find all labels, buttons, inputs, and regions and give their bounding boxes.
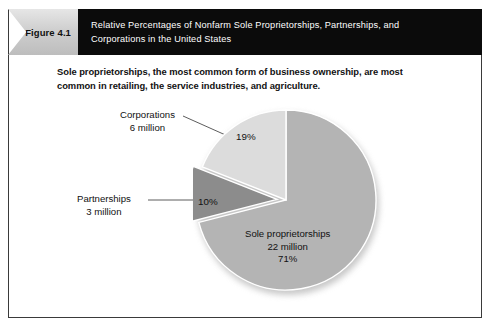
data-label-corporations-percent: 19% <box>236 131 256 142</box>
figure-label: Figure 4.1 <box>25 27 71 38</box>
figure-label-tab: Figure 4.1 <box>8 9 78 55</box>
figure-title-line-1: Relative Percentages of Nonfarm Sole Pro… <box>91 18 472 32</box>
data-label-partnerships-percent: 10% <box>198 196 218 207</box>
callout-corporations-count: 6 million <box>120 122 175 135</box>
callout-sole-name: Sole proprietorships <box>245 228 330 241</box>
callout-corporations-name: Corporations <box>120 109 175 122</box>
callout-partnerships: Partnerships 3 million <box>77 193 131 218</box>
figure-header: Figure 4.1 Relative Percentages of Nonfa… <box>8 9 482 55</box>
figure-subtitle: Sole proprietorships, the most common fo… <box>57 65 457 92</box>
callout-corporations: Corporations 6 million <box>120 109 175 134</box>
figure-title-line-2: Corporations in the United States <box>91 32 472 46</box>
callout-sole-count: 22 million <box>245 241 330 254</box>
figure-title-bar: Relative Percentages of Nonfarm Sole Pro… <box>78 9 482 55</box>
callout-partnerships-name: Partnerships <box>77 193 131 206</box>
data-label-sole-percent: 71% <box>245 253 330 266</box>
figure-subtitle-line-1: Sole proprietorships, the most common fo… <box>57 65 457 79</box>
callout-sole-proprietorships: Sole proprietorships 22 million 71% <box>245 228 330 266</box>
callout-partnerships-count: 3 million <box>77 206 131 219</box>
pie-chart: Corporations 6 million 19% Partnerships … <box>8 95 482 318</box>
figure-subtitle-line-2: common in retailing, the service industr… <box>57 79 457 93</box>
